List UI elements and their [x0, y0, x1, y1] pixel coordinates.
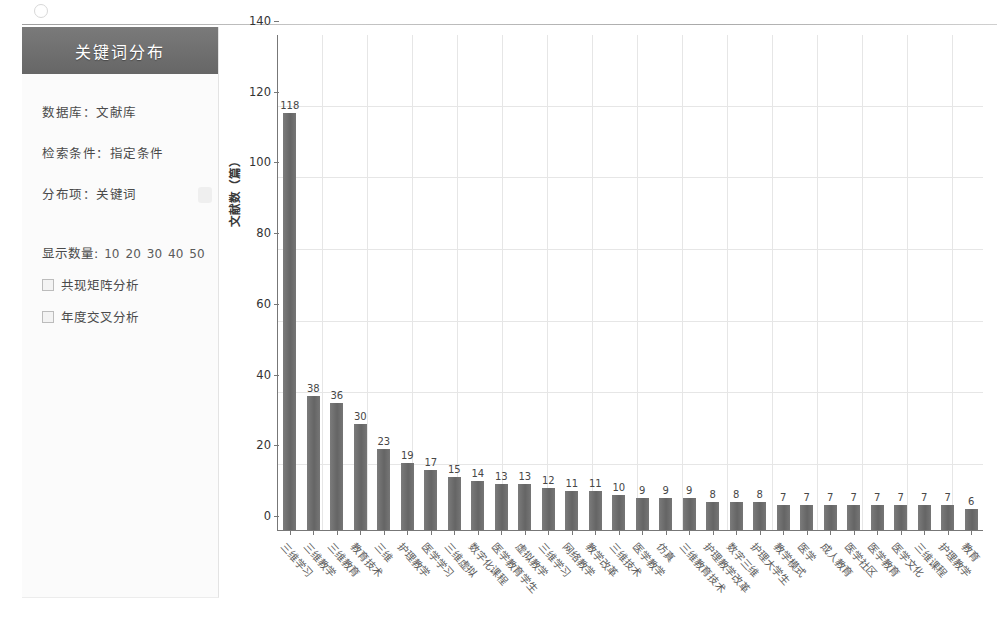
x-tick-mark — [924, 530, 925, 535]
x-tick-mark — [384, 530, 385, 535]
x-label-slot: 医学社区 — [841, 539, 865, 634]
x-axis-labels: 三维学习三维教学三维教育教育技术三维护理教学医学学习三维虚拟数字化课程医学教育学… — [277, 539, 982, 634]
x-tick-mark — [525, 530, 526, 535]
bar[interactable] — [777, 505, 790, 530]
bar-value-label: 13 — [495, 472, 508, 482]
x-tick-mark — [313, 530, 314, 535]
bar-value-label: 7 — [851, 493, 857, 503]
bar[interactable] — [918, 505, 931, 530]
count-option-10[interactable]: 10 — [104, 247, 119, 261]
bar-value-label: 23 — [377, 437, 390, 447]
x-axis-tick-label: 医学 — [795, 539, 820, 565]
x-tick-mark — [454, 530, 455, 535]
x-axis-tick-label: 仿真 — [654, 539, 679, 565]
count-option-40[interactable]: 40 — [168, 247, 183, 261]
y-axis-label: 文献数（篇） — [226, 155, 242, 227]
x-label-slot: 医学文化 — [888, 539, 912, 634]
bar[interactable] — [730, 502, 743, 530]
bar[interactable] — [424, 470, 437, 530]
y-tick-label: 60 — [256, 297, 278, 311]
bar-value-label: 7 — [827, 493, 833, 503]
bar[interactable] — [542, 488, 555, 530]
bar[interactable] — [941, 505, 954, 530]
bar[interactable] — [753, 502, 766, 530]
bar-value-label: 7 — [780, 493, 786, 503]
display-count-label: 显示数量: — [42, 243, 98, 262]
bar-slot: 11 — [560, 35, 584, 530]
bar-value-label: 15 — [448, 465, 461, 475]
bar-value-label: 9 — [663, 486, 669, 496]
bar-slot: 118 — [278, 35, 302, 530]
bar[interactable] — [401, 463, 414, 530]
tool-annual-crosstab[interactable]: 年度交叉分析 — [22, 307, 218, 326]
bar[interactable] — [518, 484, 531, 530]
bar-value-label: 36 — [330, 391, 343, 401]
count-option-50[interactable]: 50 — [189, 247, 204, 261]
bar-slot: 15 — [443, 35, 467, 530]
x-tick-mark — [689, 530, 690, 535]
count-option-20[interactable]: 20 — [126, 247, 141, 261]
bar-slot: 30 — [349, 35, 373, 530]
bar-slot: 38 — [302, 35, 326, 530]
bar[interactable] — [307, 396, 320, 530]
x-label-slot: 数字化课程 — [465, 539, 489, 634]
x-label-slot: 医学教学 — [630, 539, 654, 634]
x-tick-mark — [478, 530, 479, 535]
bar-slot: 12 — [537, 35, 561, 530]
bar-slot: 36 — [325, 35, 349, 530]
bar-slot: 7 — [795, 35, 819, 530]
x-label-slot: 虚拟教学 — [512, 539, 536, 634]
y-tick-label: 80 — [256, 226, 278, 240]
x-axis-tick-label: 教育 — [959, 539, 984, 565]
x-tick-mark — [407, 530, 408, 535]
bar[interactable] — [377, 449, 390, 530]
scan-smudge — [198, 187, 212, 203]
checkbox-icon[interactable] — [42, 279, 54, 291]
bar[interactable] — [330, 403, 343, 530]
x-tick-mark — [431, 530, 432, 535]
bar-slot: 14 — [466, 35, 490, 530]
bar-value-label: 17 — [424, 458, 437, 468]
bar[interactable] — [706, 502, 719, 530]
bar-slot: 13 — [490, 35, 514, 530]
bar[interactable] — [965, 509, 978, 530]
x-label-slot: 三维学习 — [536, 539, 560, 634]
bar[interactable] — [471, 481, 484, 531]
x-tick-mark — [337, 530, 338, 535]
bar[interactable] — [871, 505, 884, 530]
x-label-slot: 三维 — [371, 539, 395, 634]
x-label-slot: 护理大学生 — [747, 539, 771, 634]
bar[interactable] — [589, 491, 602, 530]
meta-database: 数据库：文献库 — [22, 102, 218, 121]
x-label-slot: 三维学习 — [277, 539, 301, 634]
tool-label: 年度交叉分析 — [61, 307, 139, 326]
bar-value-label: 7 — [874, 493, 880, 503]
bar[interactable] — [847, 505, 860, 530]
bar-slot: 7 — [819, 35, 843, 530]
bar[interactable] — [800, 505, 813, 530]
bar[interactable] — [495, 484, 508, 530]
bar[interactable] — [683, 498, 696, 530]
bar[interactable] — [283, 113, 296, 530]
x-label-slot: 三维课程 — [912, 539, 936, 634]
bar[interactable] — [824, 505, 837, 530]
bar-value-label: 13 — [518, 472, 531, 482]
y-tick-label: 100 — [249, 155, 278, 169]
bar[interactable] — [659, 498, 672, 530]
bar-value-label: 6 — [968, 497, 974, 507]
x-label-slot: 医学教育学生 — [489, 539, 513, 634]
bar[interactable] — [894, 505, 907, 530]
bar-slot: 11 — [584, 35, 608, 530]
tool-cooccurrence-matrix[interactable]: 共现矩阵分析 — [22, 275, 218, 294]
bar[interactable] — [565, 491, 578, 530]
bar[interactable] — [612, 495, 625, 530]
bar[interactable] — [448, 477, 461, 530]
bar[interactable] — [354, 424, 367, 530]
checkbox-icon[interactable] — [42, 311, 54, 323]
count-option-30[interactable]: 30 — [147, 247, 162, 261]
bar-slot: 19 — [396, 35, 420, 530]
x-label-slot: 医学学习 — [418, 539, 442, 634]
bar[interactable] — [636, 498, 649, 530]
bar-slot: 7 — [936, 35, 960, 530]
x-tick-mark — [971, 530, 972, 535]
